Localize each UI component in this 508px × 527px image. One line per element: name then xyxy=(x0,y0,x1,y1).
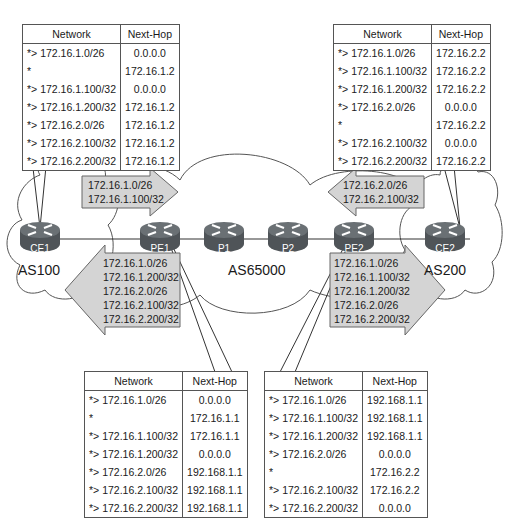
network-cell: *> 172.16.2.100/32 xyxy=(23,134,121,152)
next-hop-cell: 0.0.0.0 xyxy=(363,445,427,463)
table-row: *> 172.16.1.200/320.0.0.0 xyxy=(85,445,248,463)
router-label-pe2: PE2 xyxy=(334,243,374,254)
prefix: 172.16.2.0/26 xyxy=(103,284,179,298)
table-row: *> 172.16.1.100/32192.168.1.1 xyxy=(265,409,428,427)
table-row: *> 172.16.2.200/32192.168.1.1 xyxy=(85,499,248,518)
next-hop-cell: 192.168.1.1 xyxy=(183,499,247,518)
router-label-pe1: PE1 xyxy=(140,243,180,254)
network-cell: *> 172.16.2.0/26 xyxy=(265,445,363,463)
prefix: 172.16.2.0/26 xyxy=(343,178,419,192)
next-hop-cell: 172.16.1.2 xyxy=(121,116,180,134)
next-hop-cell: 172.16.2.2 xyxy=(432,44,491,63)
prefix: 172.16.1.100/32 xyxy=(334,270,410,284)
table-row: *> 172.16.2.0/260.0.0.0 xyxy=(334,98,491,116)
network-cell: *> 172.16.2.0/26 xyxy=(85,463,183,481)
adv-ce2-to-pe2: 172.16.2.0/26172.16.2.100/32 xyxy=(343,178,419,206)
network-cell: * xyxy=(334,116,432,134)
column-header-next-hop: Next-Hop xyxy=(183,372,247,391)
next-hop-cell: 0.0.0.0 xyxy=(363,499,427,518)
network-cell: *> 172.16.1.200/32 xyxy=(334,80,432,98)
table-row: *172.16.1.2 xyxy=(23,62,180,80)
adv-pe2-to-ce2: 172.16.1.0/26172.16.1.100/32172.16.1.200… xyxy=(334,256,410,326)
table-header: NetworkNext-Hop xyxy=(23,25,180,44)
as-label-right: AS200 xyxy=(424,262,466,278)
table-row: *> 172.16.2.100/32172.16.1.2 xyxy=(23,134,180,152)
network-cell: *> 172.16.1.0/26 xyxy=(85,391,183,410)
next-hop-cell: 192.168.1.1 xyxy=(183,463,247,481)
table-header: NetworkNext-Hop xyxy=(265,372,428,391)
adv-ce1-to-pe1: 172.16.1.0/26172.16.1.100/32 xyxy=(88,178,164,206)
table-row: *> 172.16.1.0/26172.16.2.2 xyxy=(334,44,491,63)
next-hop-cell: 0.0.0.0 xyxy=(121,44,180,63)
column-header-network: Network xyxy=(85,372,183,391)
table-row: *> 172.16.2.200/32172.16.1.2 xyxy=(23,152,180,171)
next-hop-cell: 172.16.1.1 xyxy=(183,427,247,445)
as-label-left: AS100 xyxy=(18,262,60,278)
network-cell: *> 172.16.1.100/32 xyxy=(265,409,363,427)
next-hop-cell: 192.168.1.1 xyxy=(183,481,247,499)
table-row: *> 172.16.2.100/320.0.0.0 xyxy=(334,134,491,152)
next-hop-cell: 172.16.2.2 xyxy=(363,481,427,499)
column-header-next-hop: Next-Hop xyxy=(432,25,491,44)
table-row: *> 172.16.1.0/260.0.0.0 xyxy=(85,391,248,410)
prefix: 172.16.1.0/26 xyxy=(334,256,410,270)
table-row: *172.16.2.2 xyxy=(334,116,491,134)
table-row: *> 172.16.1.100/32172.16.2.2 xyxy=(334,62,491,80)
prefix: 172.16.1.0/26 xyxy=(88,178,164,192)
next-hop-cell: 172.16.1.2 xyxy=(121,98,180,116)
column-header-next-hop: Next-Hop xyxy=(363,372,427,391)
network-cell: *> 172.16.2.200/32 xyxy=(85,499,183,518)
prefix: 172.16.1.200/32 xyxy=(103,270,179,284)
network-cell: *> 172.16.2.0/26 xyxy=(23,116,121,134)
prefix: 172.16.2.100/32 xyxy=(343,192,419,206)
table-row: *> 172.16.2.200/320.0.0.0 xyxy=(265,499,428,518)
next-hop-cell: 172.16.2.2 xyxy=(363,463,427,481)
table-row: *172.16.1.1 xyxy=(85,409,248,427)
network-cell: *> 172.16.2.200/32 xyxy=(334,152,432,171)
table-row: *> 172.16.1.100/32172.16.1.1 xyxy=(85,427,248,445)
table-header: NetworkNext-Hop xyxy=(85,372,248,391)
next-hop-cell: 192.168.1.1 xyxy=(363,409,427,427)
bgp-table-ce2: NetworkNext-Hop*> 172.16.1.0/26172.16.2.… xyxy=(333,24,491,171)
next-hop-cell: 172.16.1.2 xyxy=(121,152,180,171)
column-header-network: Network xyxy=(334,25,432,44)
next-hop-cell: 0.0.0.0 xyxy=(432,134,491,152)
network-cell: *> 172.16.1.200/32 xyxy=(23,98,121,116)
network-cell: *> 172.16.1.100/32 xyxy=(334,62,432,80)
network-cell: *> 172.16.2.200/32 xyxy=(23,152,121,171)
next-hop-cell: 172.16.2.2 xyxy=(432,62,491,80)
network-cell: *> 172.16.2.100/32 xyxy=(265,481,363,499)
network-cell: *> 172.16.2.0/26 xyxy=(334,98,432,116)
next-hop-cell: 0.0.0.0 xyxy=(121,80,180,98)
network-cell: *> 172.16.2.100/32 xyxy=(85,481,183,499)
next-hop-cell: 192.168.1.1 xyxy=(363,427,427,445)
prefix: 172.16.2.0/26 xyxy=(334,298,410,312)
prefix: 172.16.2.200/32 xyxy=(334,312,410,326)
network-cell: *> 172.16.1.0/26 xyxy=(265,391,363,410)
prefix: 172.16.2.100/32 xyxy=(103,298,179,312)
network-cell: * xyxy=(23,62,121,80)
as-label-core: AS65000 xyxy=(228,262,286,278)
table-row: *> 172.16.2.0/26192.168.1.1 xyxy=(85,463,248,481)
next-hop-cell: 172.16.2.2 xyxy=(432,116,491,134)
next-hop-cell: 0.0.0.0 xyxy=(432,98,491,116)
next-hop-cell: 192.168.1.1 xyxy=(363,391,427,410)
network-cell: *> 172.16.1.200/32 xyxy=(85,445,183,463)
network-cell: * xyxy=(85,409,183,427)
table-row: *> 172.16.2.200/32172.16.2.2 xyxy=(334,152,491,171)
table-row: *> 172.16.2.100/32192.168.1.1 xyxy=(85,481,248,499)
prefix: 172.16.1.0/26 xyxy=(103,256,179,270)
bgp-table-ce1: NetworkNext-Hop*> 172.16.1.0/260.0.0.0*1… xyxy=(22,24,180,171)
next-hop-cell: 172.16.1.1 xyxy=(183,409,247,427)
next-hop-cell: 172.16.1.2 xyxy=(121,134,180,152)
router-label-p2: P2 xyxy=(268,243,308,254)
table-row: *> 172.16.1.100/320.0.0.0 xyxy=(23,80,180,98)
network-cell: *> 172.16.2.200/32 xyxy=(265,499,363,518)
next-hop-cell: 0.0.0.0 xyxy=(183,391,247,410)
table-row: *> 172.16.1.200/32172.16.1.2 xyxy=(23,98,180,116)
network-cell: *> 172.16.1.100/32 xyxy=(85,427,183,445)
network-cell: *> 172.16.2.100/32 xyxy=(334,134,432,152)
next-hop-cell: 172.16.2.2 xyxy=(432,80,491,98)
table-row: *> 172.16.2.100/32172.16.2.2 xyxy=(265,481,428,499)
network-cell: * xyxy=(265,463,363,481)
